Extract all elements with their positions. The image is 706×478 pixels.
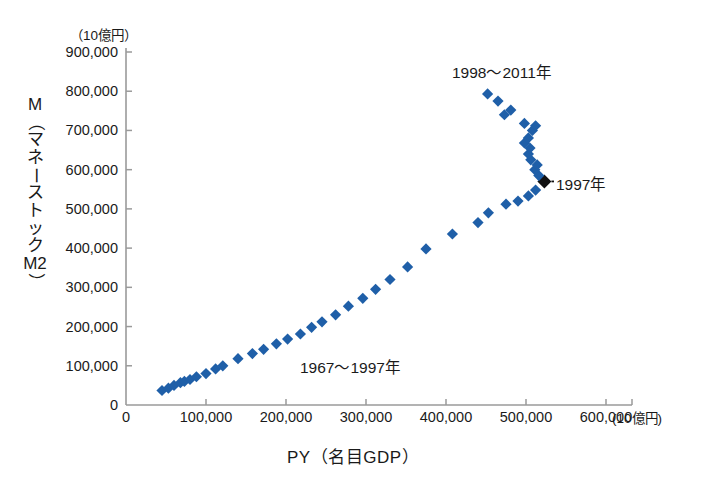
y-axis-tick-label: 500,000 <box>42 202 118 217</box>
y-axis-unit-label: （10億円） <box>70 24 137 44</box>
data-point <box>343 301 354 312</box>
data-point <box>258 344 269 355</box>
y-axis-tick-label: 200,000 <box>42 320 118 335</box>
x-axis-tick-label: 100,000 <box>161 410 251 425</box>
annotation-early-period: 1967〜1997年 <box>300 355 401 377</box>
data-point <box>370 284 381 295</box>
data-point <box>306 322 317 333</box>
y-axis-tick-label: 100,000 <box>42 359 118 374</box>
annotation-late-period: 1998〜2011年 <box>452 60 552 82</box>
x-axis-tick-label: 0 <box>81 410 171 425</box>
data-point <box>282 334 293 345</box>
data-point <box>472 217 483 228</box>
data-point <box>271 338 282 349</box>
x-axis-tick-label: 400,000 <box>401 410 491 425</box>
data-point <box>384 274 395 285</box>
data-point <box>519 118 530 129</box>
y-axis-tick-label: 400,000 <box>42 241 118 256</box>
chart-figure: （10億円） (10億円) M （ マ ネ ー ス ト ッ ク M2 ） PY（… <box>0 0 706 478</box>
y-axis-tick-label: 800,000 <box>42 84 118 99</box>
data-point <box>316 316 327 327</box>
data-point <box>447 228 458 239</box>
y-axis-title-ltsu: ッ <box>18 220 52 238</box>
data-points-layer <box>156 88 551 396</box>
data-point <box>232 353 243 364</box>
y-axis-tick-label: 700,000 <box>42 123 118 138</box>
data-point <box>492 95 503 106</box>
x-axis-tick-label: 200,000 <box>241 410 331 425</box>
y-axis-tick-label: 600,000 <box>42 163 118 178</box>
x-axis-title: PY（名目GDP） <box>0 443 706 468</box>
data-point <box>500 199 511 210</box>
x-axis-tick-label: 300,000 <box>321 410 411 425</box>
data-point <box>247 348 258 359</box>
data-point <box>482 88 493 99</box>
data-point <box>330 309 341 320</box>
x-axis-tick-label: 600,000 <box>561 410 651 425</box>
data-point <box>295 328 306 339</box>
x-axis-tick-label: 500,000 <box>481 410 571 425</box>
data-point <box>357 293 368 304</box>
data-point <box>200 368 211 379</box>
data-point <box>402 261 413 272</box>
axes-layer <box>126 48 632 405</box>
annotation-year-1997: 1997年 <box>556 172 606 194</box>
data-point <box>512 195 523 206</box>
data-point <box>420 243 431 254</box>
y-axis-tick-label: 900,000 <box>42 45 118 60</box>
y-axis-tick-label: 300,000 <box>42 280 118 295</box>
data-point <box>483 207 494 218</box>
